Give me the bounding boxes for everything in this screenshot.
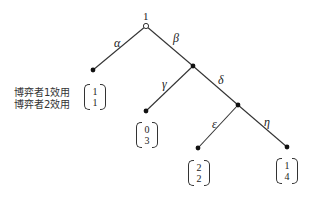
- edge-epsilon: [198, 105, 238, 148]
- edge-eta: [238, 105, 287, 147]
- payoff-p1: 1: [93, 86, 98, 97]
- action-label-epsilon: ε: [212, 119, 217, 130]
- payoff-p1: 1: [285, 160, 290, 171]
- payoff-p2: 3: [145, 135, 150, 146]
- payoff-p1: 2: [197, 162, 202, 173]
- payoff-legend: 博弈者1效用 博弈者2效用: [14, 87, 70, 110]
- payoff-p1: 0: [145, 124, 150, 135]
- payoff-vector-epsilon: 2 2: [188, 160, 210, 186]
- payoff-p2: 2: [197, 173, 202, 184]
- action-label-beta: β: [173, 33, 179, 44]
- legend-player2-utility: 博弈者2效用: [14, 99, 70, 111]
- action-label-eta: η: [264, 117, 270, 128]
- payoff-vector-alpha: 1 1: [84, 84, 106, 110]
- decision-node-delta: [236, 103, 241, 108]
- payoff-p2: 4: [285, 171, 290, 182]
- payoff-p2: 1: [93, 97, 98, 108]
- edge-delta: [193, 66, 238, 105]
- leaf-node-alpha: [91, 68, 96, 73]
- root-node: [143, 23, 148, 28]
- leaf-node-eta: [285, 145, 290, 150]
- action-label-alpha: α: [114, 38, 120, 49]
- root-player-label: 1: [143, 11, 149, 22]
- payoff-vector-gamma: 0 3: [136, 122, 158, 148]
- edge-beta: [146, 26, 193, 66]
- action-label-delta: δ: [218, 75, 224, 86]
- decision-node-beta: [191, 64, 196, 69]
- action-label-gamma: γ: [162, 79, 167, 90]
- leaf-node-gamma: [144, 109, 149, 114]
- payoff-vector-eta: 1 4: [276, 158, 298, 184]
- edge-gamma: [146, 66, 193, 111]
- leaf-node-epsilon: [196, 146, 201, 151]
- legend-player1-utility: 博弈者1效用: [14, 87, 70, 99]
